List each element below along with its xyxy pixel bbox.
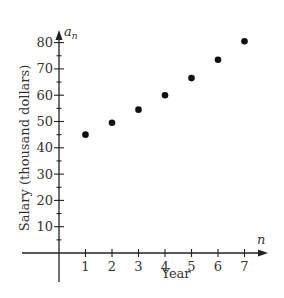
x-tick-label: 7 (240, 259, 248, 274)
data-point (109, 120, 116, 127)
y-axis-variable-label: an (64, 24, 78, 41)
y-tick-label: 80 (36, 35, 53, 50)
y-tick-label: 40 (36, 140, 53, 155)
chart-canvas: 1020304050607080 1234567 Salary (thousan… (0, 0, 284, 298)
x-tick-label: 2 (108, 259, 116, 274)
x-tick-label: 1 (81, 259, 89, 274)
data-points (82, 38, 248, 138)
y-tick-label: 50 (36, 114, 53, 129)
y-tick-label: 20 (36, 193, 53, 208)
data-point (241, 38, 248, 45)
x-axis-arrow-icon (258, 250, 268, 257)
x-axis-title: Year (160, 266, 191, 281)
y-tick-label: 10 (36, 219, 53, 234)
data-point (82, 131, 89, 138)
y-axis-ticks: 1020304050607080 (36, 35, 64, 240)
x-tick-label: 6 (214, 259, 222, 274)
data-point (162, 92, 169, 99)
axes (22, 30, 268, 282)
data-point (135, 106, 142, 113)
x-axis-variable-label: n (257, 232, 265, 247)
y-tick-label: 30 (36, 167, 53, 182)
scatter-chart: 1020304050607080 1234567 Salary (thousan… (0, 0, 284, 298)
y-axis-arrow-icon (56, 30, 63, 40)
x-tick-label: 3 (134, 259, 142, 274)
y-tick-label: 60 (36, 88, 53, 103)
y-axis-title: Salary (thousand dollars) (17, 65, 32, 232)
y-var-subscript: n (72, 31, 78, 41)
y-tick-label: 70 (36, 61, 53, 76)
data-point (188, 75, 195, 82)
y-var-base: a (64, 24, 72, 39)
data-point (215, 56, 222, 63)
